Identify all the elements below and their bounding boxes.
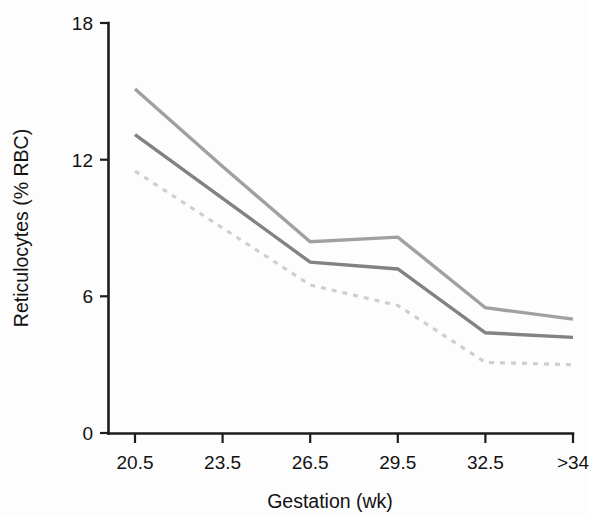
x-tick-marks: [135, 434, 573, 444]
x-tick-label-gt34: >34: [557, 452, 589, 473]
x-axis-title: Gestation (wk): [267, 490, 393, 512]
y-tick-label-0: 0: [82, 423, 93, 444]
y-tick-label-18: 18: [72, 13, 93, 34]
series-group: [135, 89, 573, 365]
series-upper-curve: [135, 89, 573, 319]
x-tick-label-32-5: 32.5: [467, 452, 504, 473]
series-lower-curve: [135, 171, 573, 365]
x-tick-label-20-5: 20.5: [117, 452, 154, 473]
y-tick-label-12: 12: [72, 150, 93, 171]
x-tick-label-23-5: 23.5: [204, 452, 241, 473]
x-tick-label-26-5: 26.5: [292, 452, 329, 473]
chart-figure: 18 12 6 0 20.5 23.5 26.5 29.5 32.5 >34 G…: [0, 0, 589, 516]
chart-canvas: 18 12 6 0 20.5 23.5 26.5 29.5 32.5 >34 G…: [0, 0, 589, 516]
y-tick-label-6: 6: [82, 286, 93, 307]
x-tick-label-29-5: 29.5: [379, 452, 416, 473]
series-middle-curve: [135, 135, 573, 338]
y-axis-title: Reticulocytes (% RBC): [10, 129, 32, 327]
